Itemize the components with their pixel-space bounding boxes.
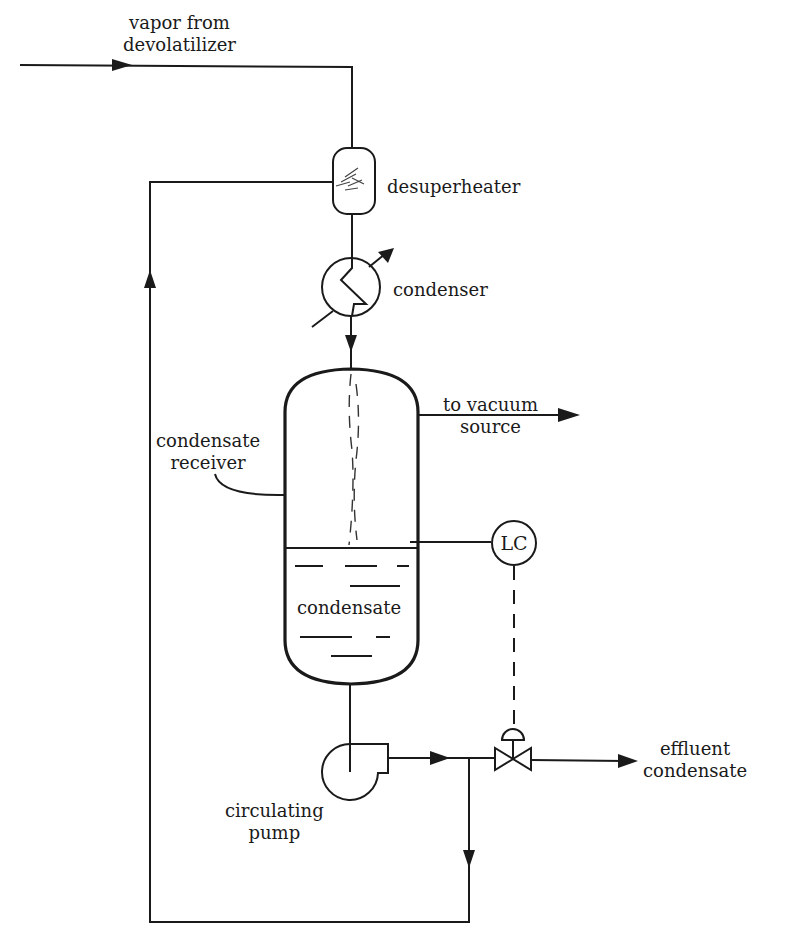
receiver-leader-line [215, 474, 284, 495]
flow-arrow-icon [345, 335, 357, 352]
condenser-exchanger [312, 248, 394, 327]
effluent-label: effluent condensate [643, 738, 747, 782]
vapor-inlet-label: vapor from devolatilizer [123, 12, 236, 56]
level-controller: LC [492, 521, 536, 565]
desuperheater-label: desuperheater [387, 176, 520, 198]
coolant-out-arrow-icon [378, 248, 394, 263]
process-flow-diagram: LC [0, 0, 791, 946]
condensate-receiver-vessel [285, 369, 418, 684]
level-controller-label: LC [500, 532, 527, 554]
condensate-label: condensate [297, 597, 401, 619]
valve-actuator-icon [502, 729, 524, 740]
effluent-line [531, 760, 625, 761]
spray-icon [336, 168, 364, 190]
flow-arrow-icon [558, 408, 580, 422]
control-valve [495, 729, 531, 770]
condenser-label: condenser [393, 279, 488, 301]
flow-arrow-icon [463, 850, 475, 868]
circulating-pump [322, 744, 388, 800]
vacuum-label: to vacuum source [443, 394, 538, 438]
pump-label: circulating pump [225, 800, 324, 844]
flow-arrow-icon [618, 754, 638, 768]
vapor-inlet-line [20, 59, 352, 148]
receiver-label: condensate receiver [156, 430, 260, 474]
flow-arrow-icon [144, 270, 156, 288]
flow-arrow-icon [430, 751, 450, 765]
desuperheater-vessel [333, 148, 375, 214]
flow-arrow-icon [112, 59, 132, 71]
